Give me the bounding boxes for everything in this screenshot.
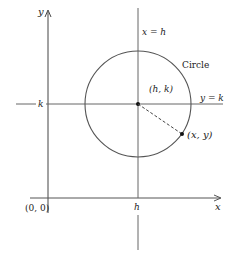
horizontal-line-label: y = k <box>199 93 224 103</box>
x-axis-label: x <box>215 201 221 212</box>
point-label: (x, y) <box>187 129 213 140</box>
radius-dashed-line <box>138 104 182 134</box>
circle-diagram: y x (0, 0) x = h h y = k k Circle (h, k)… <box>0 0 235 265</box>
circle-label: Circle <box>182 60 209 70</box>
k-tick-label: k <box>38 99 43 109</box>
h-tick-label: h <box>134 202 140 212</box>
origin-label: (0, 0) <box>25 203 49 213</box>
vertical-line-label: x = h <box>142 27 166 37</box>
center-label: (h, k) <box>149 84 173 94</box>
point-on-circle <box>180 132 184 136</box>
y-axis-label: y <box>37 6 44 17</box>
